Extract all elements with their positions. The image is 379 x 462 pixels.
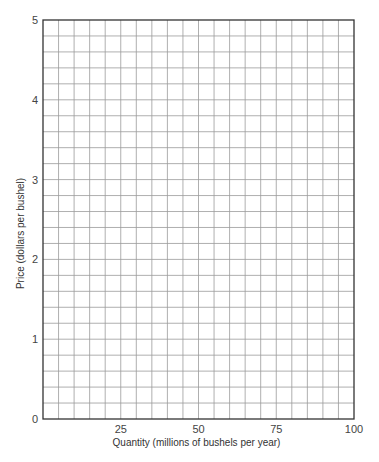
y-axis-tick-labels: 012345 xyxy=(32,14,38,425)
y-tick-label: 4 xyxy=(32,94,38,106)
plot-grid xyxy=(43,20,354,419)
x-tick-label: 25 xyxy=(115,423,127,435)
y-tick-label: 2 xyxy=(32,253,38,265)
x-tick-label: 100 xyxy=(345,423,363,435)
y-tick-label: 0 xyxy=(32,413,38,425)
y-tick-label: 5 xyxy=(32,14,38,26)
blank-supply-demand-grid-chart: 012345 255075100 Quantity (millions of b… xyxy=(0,0,379,462)
y-tick-label: 3 xyxy=(32,174,38,186)
x-tick-label: 50 xyxy=(192,423,204,435)
x-tick-label: 75 xyxy=(270,423,282,435)
x-axis-label: Quantity (millions of bushels per year) xyxy=(113,437,281,448)
x-axis-tick-labels: 255075100 xyxy=(115,423,364,435)
y-axis-label: Price (dollars per bushel) xyxy=(15,178,26,289)
y-tick-label: 1 xyxy=(32,333,38,345)
